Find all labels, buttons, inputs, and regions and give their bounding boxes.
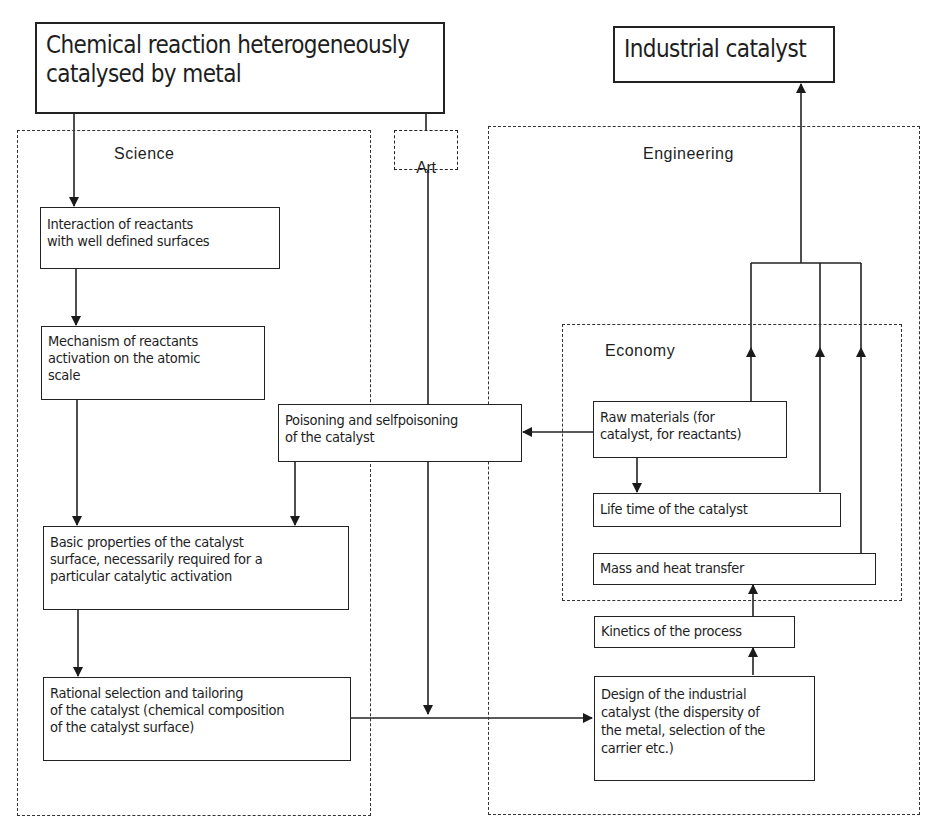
- science-node-mechanism: Mechanism of reactants activation on the…: [41, 326, 265, 400]
- economy-node-raw-materials: Raw materials (for catalyst, for reactan…: [593, 401, 787, 458]
- science-node-basic-properties: Basic properties of the catalyst surface…: [43, 526, 349, 610]
- art-region: Art: [394, 130, 458, 170]
- science-region-label: Science: [114, 145, 174, 163]
- target-node: Industrial catalyst: [613, 26, 835, 83]
- engineering-node-kinetics: Kinetics of the process: [594, 616, 795, 648]
- art-region-label: Art: [416, 159, 436, 176]
- engineering-node-design: Design of the industrial catalyst (the d…: [594, 676, 815, 781]
- science-node-rational-selection: Rational selection and tailoring of the …: [43, 677, 351, 761]
- economy-region-label: Economy: [605, 342, 675, 360]
- source-node: Chemical reaction heterogeneously cataly…: [35, 22, 445, 114]
- science-node-interaction: Interaction of reactants with well defin…: [40, 207, 280, 269]
- poisoning-node: Poisoning and selfpoisoning of the catal…: [278, 404, 522, 462]
- economy-node-life-time: Life time of the catalyst: [593, 493, 841, 527]
- economy-node-mass-heat-transfer: Mass and heat transfer: [593, 553, 876, 585]
- engineering-region-label: Engineering: [643, 145, 734, 163]
